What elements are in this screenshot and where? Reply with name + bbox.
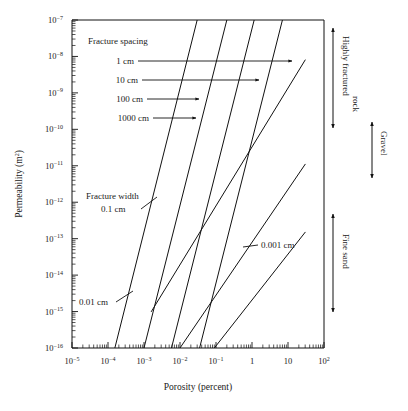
range-label-fine-sand: Fine sand: [341, 234, 351, 269]
fracture-spacing-label-10cm: 10 cm: [116, 75, 138, 85]
range-label-highly-fractured-rock-line1: Highly fractured: [341, 36, 351, 96]
fracture-spacing-label-1cm: 1 cm: [116, 56, 134, 66]
fracture-width-label-001cm: 0.01 cm: [79, 297, 108, 307]
fracture-width-header: Fracture width: [86, 191, 139, 201]
y-axis-title-main: Permeability (m: [14, 156, 25, 218]
fracture-width-labels: Fracture width 0.1 cm 0.01 cm 0.001 cm: [79, 191, 295, 307]
range-label-gravel: Gravel: [379, 131, 389, 156]
x-tick-label: 10−4: [101, 356, 116, 367]
range-label-highly-fractured-rock-line2: rock: [351, 96, 361, 112]
x-tick-label: 10−2: [173, 356, 188, 367]
fracture-spacing-label-100cm: 100 cm: [116, 94, 143, 104]
permeability-porosity-figure: 10−710−810−910−1010−1110−1210−1310−1410−…: [0, 0, 408, 411]
x-tick-label: 10−5: [65, 356, 80, 367]
y-tick-label: 10−11: [45, 160, 63, 171]
data-series-lines: [115, 20, 305, 348]
fracture-spacing-label-1000cm: 1000 cm: [118, 113, 149, 123]
fracture-width-label-01cm: 0.1 cm: [101, 204, 126, 214]
leader-width-01cm: [141, 197, 157, 209]
y-tick-label: 10−14: [45, 270, 63, 281]
y-axis-title: Permeability (m2): [14, 150, 25, 218]
y-tick-label: 10−7: [48, 15, 63, 26]
y-tick-label: 10−10: [45, 124, 63, 135]
x-tick-label: 10: [284, 356, 293, 366]
fracture-width-label-0001cm: 0.001 cm: [261, 240, 295, 250]
x-tick-label: 10−1: [209, 356, 224, 367]
fracture-spacing-header: Fracture spacing: [88, 36, 148, 46]
y-tick-label: 10−9: [48, 87, 63, 98]
y-tick-label: 10−16: [45, 343, 63, 354]
x-tick-label: 102: [318, 356, 330, 367]
y-axis-ticks: [72, 20, 78, 348]
series-line-fracture-spacing: [200, 20, 283, 348]
y-tick-label: 10−15: [45, 306, 63, 317]
x-tick-label: 10−3: [137, 356, 152, 367]
x-axis-tick-labels: 10−510−410−310−210−1110102: [65, 356, 330, 367]
y-axis-title-close: ): [14, 150, 25, 153]
side-range-annotations: Highly fractured rock Gravel Fine sand: [333, 28, 389, 312]
y-tick-label: 10−8: [48, 51, 63, 62]
chart-canvas: 10−710−810−910−1010−1110−1210−1310−1410−…: [0, 0, 408, 411]
leader-width-001cm: [116, 291, 133, 302]
series-line-fracture-width: [151, 60, 305, 312]
y-axis-tick-labels: 10−710−810−910−1010−1110−1210−1310−1410−…: [45, 15, 63, 354]
x-axis-ticks: [72, 342, 324, 348]
plot-frame: [72, 20, 324, 348]
series-line-fracture-spacing: [171, 20, 254, 348]
fracture-spacing-leader-lines: [138, 61, 292, 118]
x-axis-title: Porosity (percent): [164, 382, 232, 393]
y-tick-label: 10−13: [45, 233, 63, 244]
y-tick-label: 10−12: [45, 197, 63, 208]
x-tick-label: 1: [250, 356, 254, 366]
fracture-spacing-labels: Fracture spacing 1 cm 10 cm 100 cm 1000 …: [88, 36, 149, 123]
